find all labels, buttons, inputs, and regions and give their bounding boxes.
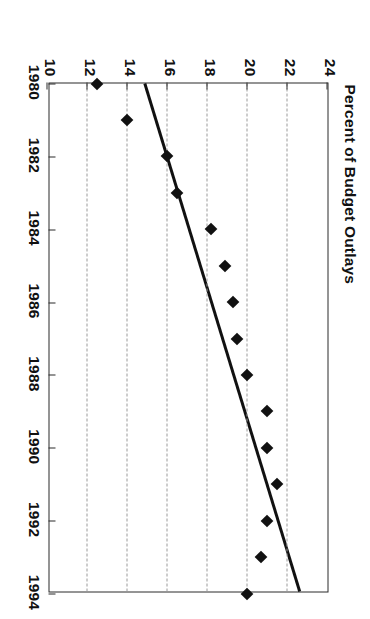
x-axis-tick [48,447,55,448]
y-axis-tick-label: 14 [120,24,138,76]
gridline-y [126,83,127,591]
gridline-y [86,83,87,591]
gridline-y [206,83,207,591]
x-axis-tick [48,156,55,157]
y-axis-tick-label: 22 [280,24,298,76]
y-axis-tick-label: 24 [320,24,338,76]
x-axis-tick [48,83,55,84]
y-axis-tick [246,82,247,89]
data-point-marker [219,259,232,272]
data-point-marker [227,295,240,308]
data-point-marker [231,332,244,345]
data-point-marker [261,441,274,454]
x-axis-tick-label: 1980 [24,47,42,117]
x-axis-tick [48,302,55,303]
data-point-marker [171,186,184,199]
data-point-marker [91,77,104,90]
x-axis-tick [48,593,55,594]
x-axis-tick-label: 1984 [24,193,42,263]
x-axis-tick-label: 1990 [24,411,42,481]
x-axis-tick-label: 1988 [24,338,42,408]
y-axis-tick [166,82,167,89]
x-axis-tick-label: 1986 [24,266,42,336]
plot-area [48,82,328,592]
y-axis-tick-label: 12 [80,24,98,76]
rotated-figure-wrapper: Percent of Budget Outlays 10121416182022… [0,0,370,619]
y-axis-tick-label: 10 [40,24,58,76]
y-axis-tick-label: 20 [240,24,258,76]
x-axis-tick-label: 1992 [24,484,42,554]
data-point-marker [161,149,174,162]
x-axis-tick [48,229,55,230]
data-point-marker [271,477,284,490]
y-axis-title: Percent of Budget Outlays [340,84,358,284]
data-point-marker [255,550,268,563]
y-axis-tick [326,82,327,89]
chart-figure: Percent of Budget Outlays 10121416182022… [0,0,370,619]
gridline-y [246,83,247,591]
data-point-marker [241,587,254,600]
data-point-marker [121,113,134,126]
data-point-marker [261,514,274,527]
y-axis-tick [206,82,207,89]
data-point-marker [261,404,274,417]
y-axis-tick [46,82,47,89]
x-axis-tick [48,374,55,375]
chart-overlay [49,83,327,591]
data-point-marker [241,368,254,381]
y-axis-tick-label: 18 [200,24,218,76]
y-axis-tick [126,82,127,89]
y-axis-tick [86,82,87,89]
y-axis-tick [286,82,287,89]
gridline-y [286,83,287,591]
x-axis-tick-label: 1982 [24,120,42,190]
y-axis-tick-label: 16 [160,24,178,76]
x-axis-tick [48,520,55,521]
x-axis-tick-label: 1994 [24,557,42,619]
